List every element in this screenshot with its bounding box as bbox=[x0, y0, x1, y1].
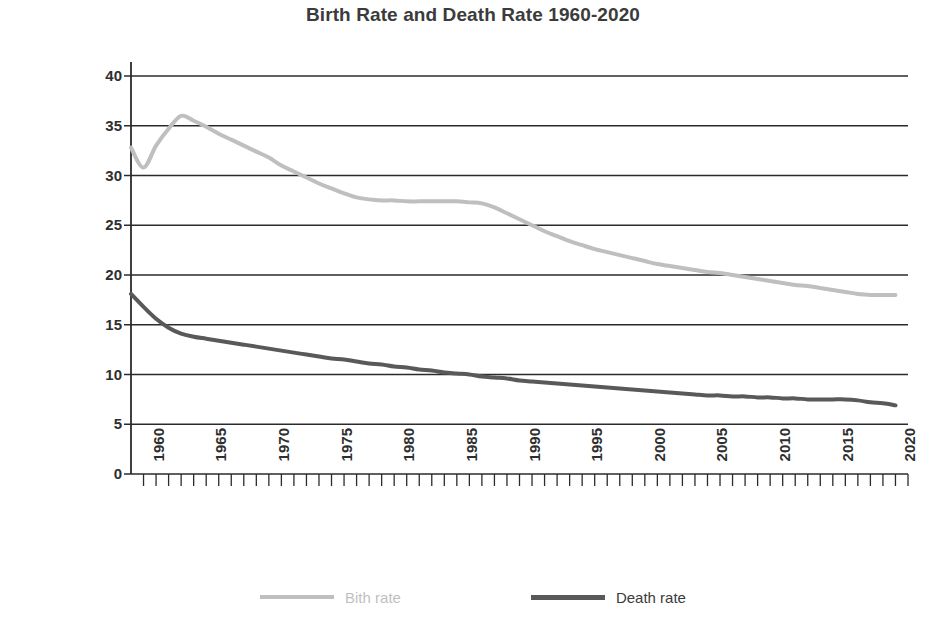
x-tick-label: 1980 bbox=[400, 428, 417, 488]
legend-item[interactable]: Bith rate bbox=[260, 590, 401, 605]
x-tick-label: 1975 bbox=[338, 428, 355, 488]
x-tick-label: 1965 bbox=[212, 428, 229, 488]
x-tick-label: 1970 bbox=[275, 428, 292, 488]
x-tick-label: 1995 bbox=[588, 428, 605, 488]
legend-item[interactable]: Death rate bbox=[531, 590, 686, 605]
x-tick-label: 1985 bbox=[463, 428, 480, 488]
x-tick-label: 2010 bbox=[776, 428, 793, 488]
x-tick-label: 2000 bbox=[651, 428, 668, 488]
legend-label: Death rate bbox=[616, 590, 686, 605]
legend-swatch bbox=[531, 595, 605, 600]
x-tick-label: 2020 bbox=[901, 428, 918, 488]
chart-legend: Bith rateDeath rate bbox=[0, 578, 946, 616]
x-tick-label: 2015 bbox=[839, 428, 856, 488]
x-axis-tick-labels: 1960196519701975198019851990199520002005… bbox=[0, 0, 946, 637]
legend-label: Bith rate bbox=[345, 590, 401, 605]
x-tick-label: 1990 bbox=[526, 428, 543, 488]
chart-container: Birth Rate and Death Rate 1960-2020 Numb… bbox=[0, 0, 946, 637]
x-tick-label: 2005 bbox=[713, 428, 730, 488]
legend-swatch bbox=[260, 595, 334, 599]
x-tick-label: 1960 bbox=[150, 428, 167, 488]
